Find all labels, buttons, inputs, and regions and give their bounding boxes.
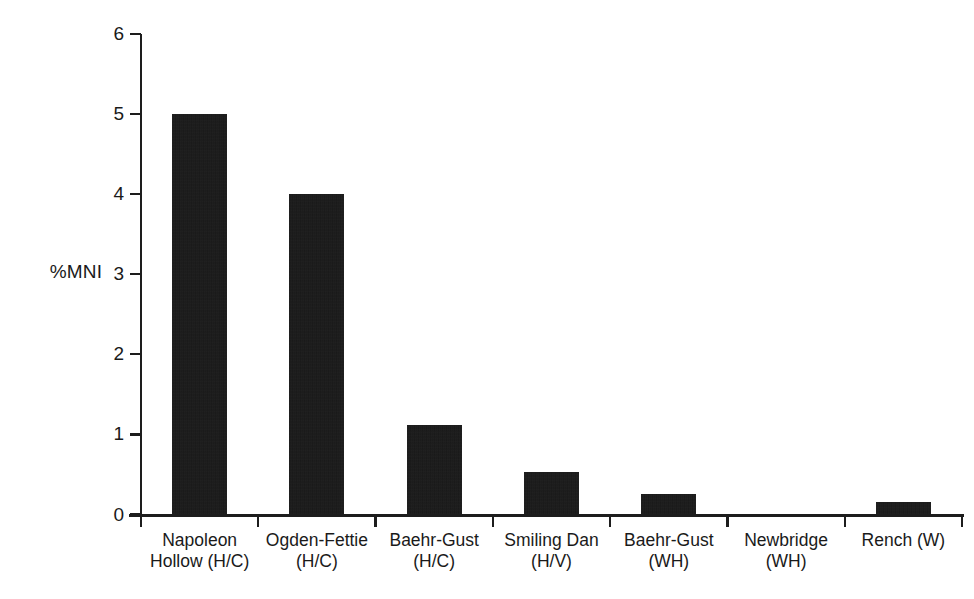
y-axis-tick [130,273,141,275]
bar [407,425,462,515]
bar [289,194,344,514]
y-axis-line [140,34,142,517]
y-axis-tick [130,353,141,355]
bar [641,494,696,514]
x-axis-tick [844,516,846,527]
x-axis-tick-label: Baehr-Gust (H/C) [376,530,493,572]
y-axis-tick [130,433,141,435]
y-axis-tick [130,193,141,195]
y-axis-tick-label: 4 [96,184,124,203]
x-axis-tick-label: Rench (W) [845,530,962,551]
x-axis-tick [726,516,728,527]
y-axis-tick [130,113,141,115]
bar [172,114,227,514]
y-axis-tick-label: 2 [96,344,124,363]
x-axis-tick-label: Baehr-Gust (WH) [610,530,727,572]
y-axis-tick-label: 6 [96,24,124,43]
y-axis-tick-label: 3 [96,264,124,283]
x-axis-tick-label: Newbridge (WH) [727,530,844,572]
x-axis-tick-label: Smiling Dan (H/V) [493,530,610,572]
y-axis-tick-label: 1 [96,424,124,443]
x-axis-tick [609,516,611,527]
y-axis-tick-label: 0 [96,505,124,524]
x-axis-tick-label: Ogden-Fettie (H/C) [258,530,375,572]
y-axis-tick [130,33,141,35]
bar [876,502,931,515]
x-axis-tick-label: Napoleon Hollow (H/C) [141,530,258,572]
x-axis-tick [961,516,963,527]
x-axis-tick [257,516,259,527]
x-axis-tick [374,516,376,527]
bar-chart: %MNI 0123456 Napoleon Hollow (H/C)Ogden-… [0,0,974,599]
x-axis-tick [492,516,494,527]
y-axis-tick-label: 5 [96,104,124,123]
x-axis-tick [140,516,142,527]
bar [524,472,579,514]
